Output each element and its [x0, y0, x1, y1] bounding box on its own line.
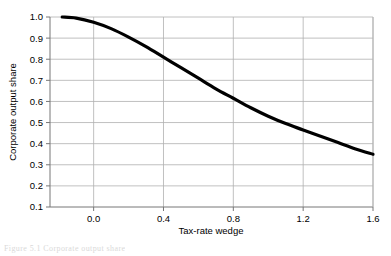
y-axis-tick-labels: 0.10.20.30.40.50.60.70.80.91.0: [30, 11, 43, 212]
x-tick-label: 0.4: [157, 213, 170, 224]
y-axis-ticks: [46, 17, 50, 207]
x-axis-tick-labels: 0.00.40.81.21.6: [87, 213, 380, 224]
y-tick-label: 0.6: [30, 96, 43, 107]
line-chart: 0.10.20.30.40.50.60.70.80.91.0 0.00.40.8…: [0, 0, 391, 256]
x-tick-label: 1.6: [366, 213, 379, 224]
x-axis-title: Tax-rate wedge: [179, 225, 244, 236]
y-tick-label: 1.0: [30, 11, 43, 22]
plot-background: [50, 17, 373, 207]
y-tick-label: 0.8: [30, 54, 43, 65]
figure-caption: Figure 5.1 Corporate output share: [4, 244, 125, 255]
x-tick-label: 1.2: [297, 213, 310, 224]
x-tick-label: 0.8: [227, 213, 240, 224]
y-tick-label: 0.4: [30, 138, 43, 149]
y-tick-label: 0.5: [30, 117, 43, 128]
figure-container: 0.10.20.30.40.50.60.70.80.91.0 0.00.40.8…: [0, 0, 391, 256]
y-tick-label: 0.2: [30, 180, 43, 191]
x-tick-label: 0.0: [87, 213, 100, 224]
x-axis-ticks: [94, 207, 373, 211]
y-tick-label: 0.1: [30, 201, 43, 212]
y-axis-title: Corporate output share: [7, 63, 18, 161]
y-tick-label: 0.3: [30, 159, 43, 170]
y-tick-label: 0.7: [30, 75, 43, 86]
y-tick-label: 0.9: [30, 33, 43, 44]
